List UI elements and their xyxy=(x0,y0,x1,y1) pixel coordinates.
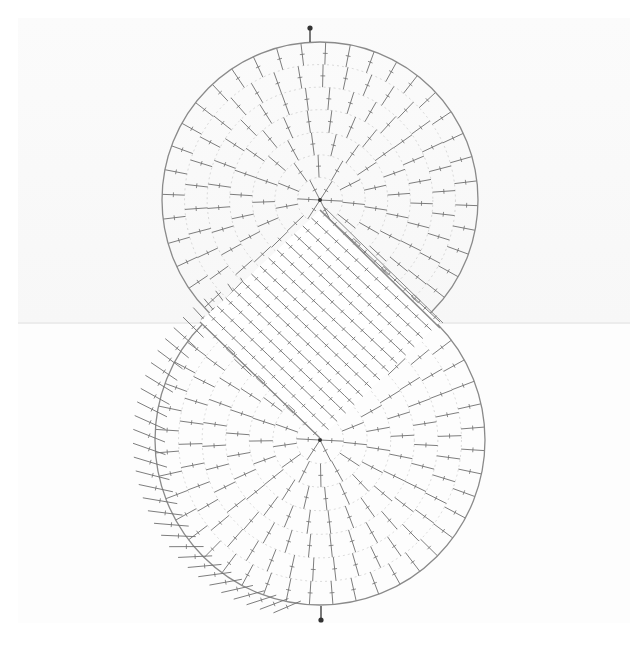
crochet-chart xyxy=(0,0,630,652)
end-marker-icon xyxy=(318,606,323,623)
start-marker-icon xyxy=(307,25,312,42)
diagonal-join-band xyxy=(200,207,443,438)
